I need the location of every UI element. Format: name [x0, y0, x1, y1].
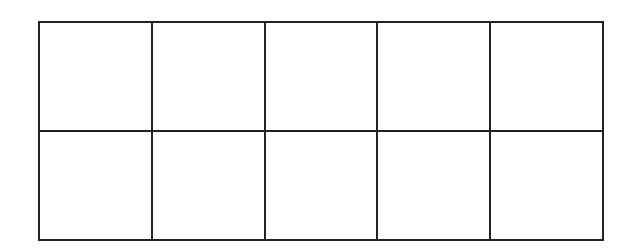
- grid-cell-r2-c3: [265, 131, 378, 240]
- grid-cell-r2-c5: [490, 131, 603, 240]
- grid-cell-r2-c1: [39, 131, 152, 240]
- grid-cell-r1-c3: [265, 22, 378, 131]
- grid-cell-r2-c4: [377, 131, 490, 240]
- grid-cell-r1-c5: [490, 22, 603, 131]
- grid-cell-r1-c4: [377, 22, 490, 131]
- grid-cell-r1-c1: [39, 22, 152, 131]
- ten-frame-grid: [38, 21, 604, 241]
- grid-cell-r1-c2: [152, 22, 265, 131]
- grid-cell-r2-c2: [152, 131, 265, 240]
